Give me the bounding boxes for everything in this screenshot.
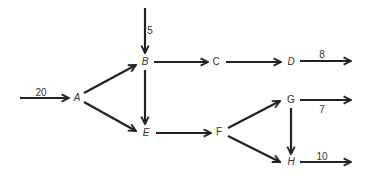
node-f: F — [216, 126, 222, 137]
edge-arrow-a-b — [84, 65, 136, 93]
node-b: B — [142, 56, 149, 67]
edge-arrow-f-h — [228, 136, 280, 162]
outflow-value-h: 10 — [316, 151, 328, 162]
node-a: A — [73, 92, 81, 103]
flows-layer: 2058710 — [20, 8, 351, 162]
flow-network-diagram: 2058710 ABCDEFGH — [0, 0, 370, 179]
node-c: C — [212, 56, 219, 67]
node-g: G — [287, 94, 295, 105]
node-d: D — [287, 56, 294, 67]
edge-arrow-a-e — [84, 102, 136, 131]
edge-arrow-f-g — [228, 101, 280, 128]
node-h: H — [287, 156, 295, 167]
inflow-value-b: 5 — [147, 25, 153, 36]
node-e: E — [143, 127, 150, 138]
inflow-value-a: 20 — [35, 87, 47, 98]
outflow-value-g: 7 — [319, 104, 325, 115]
edges-layer — [84, 62, 291, 162]
outflow-value-d: 8 — [319, 49, 325, 60]
